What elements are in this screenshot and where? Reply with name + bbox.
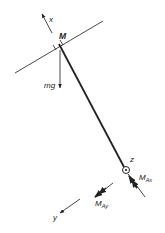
moment-ax-arrow-second-head [132,180,137,188]
y-axis-label: y [52,213,58,222]
moment-ax-label: MAx [139,173,152,183]
mass-label: M [59,31,67,41]
moment-ay-label: MAy [95,199,109,209]
x-axis-label: x [48,15,54,24]
free-body-diagram: x M mg z MAx MAy y [0,0,165,233]
z-axis-dot [125,169,127,171]
z-axis-label: z [129,155,134,164]
weight-label: mg [44,81,56,90]
y-axis-arrow [60,199,80,213]
moment-ay-arrow-head-2 [99,188,106,194]
rod [59,44,124,167]
perpendicular-line [15,21,103,73]
